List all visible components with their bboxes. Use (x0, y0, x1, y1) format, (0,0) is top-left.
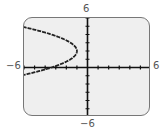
y-min-label: −6 (80, 119, 95, 129)
plot-area (24, 18, 150, 116)
x-min-label: −6 (6, 61, 21, 71)
y-max-label: 6 (83, 4, 89, 14)
graph-screen (23, 17, 150, 116)
x-max-label: 6 (153, 61, 159, 71)
parabola-curve (24, 25, 77, 78)
